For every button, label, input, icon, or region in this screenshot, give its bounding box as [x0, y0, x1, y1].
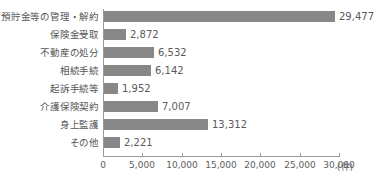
chart-bar-row: 相続手続6,142 [0, 64, 356, 82]
chart-bar-row: 預貯金等の管理・解約29,477 [0, 10, 356, 28]
chart-bar-row: その他2,221 [0, 136, 356, 154]
bar-value-label: 2,872 [130, 28, 159, 42]
bar [103, 137, 120, 148]
x-axis-tick-label: 25,000 [278, 160, 322, 170]
x-axis-unit-label: (件) [337, 160, 353, 173]
bar [103, 65, 151, 76]
bar-value-label: 29,477 [339, 10, 374, 24]
bar [103, 11, 335, 22]
x-axis-tick-label: 30,000 [317, 160, 361, 170]
category-label: 起訴手続等 [0, 82, 99, 96]
category-label: 預貯金等の管理・解約 [0, 10, 99, 24]
x-axis-tick-label: 5,000 [120, 160, 164, 170]
bar-value-label: 7,007 [162, 100, 191, 114]
chart-bar-row: 不動産の処分6,532 [0, 46, 356, 64]
bar-value-label: 6,142 [155, 64, 184, 78]
x-axis-tick-label: 10,000 [160, 160, 204, 170]
x-axis-tick-label: 20,000 [238, 160, 282, 170]
category-label: 保険金受取 [0, 28, 99, 42]
category-label: 不動産の処分 [0, 46, 99, 60]
bar [103, 119, 208, 130]
bar [103, 29, 126, 40]
chart-bar-row: 介護保険契約7,007 [0, 100, 356, 118]
category-label: その他 [0, 136, 99, 150]
bar-value-label: 1,952 [122, 82, 151, 96]
bar [103, 101, 158, 112]
chart-bar-row: 起訴手続等1,952 [0, 82, 356, 100]
bar [103, 83, 118, 94]
x-axis-line [103, 156, 339, 157]
bar-value-label: 13,312 [212, 118, 247, 132]
x-axis-tick-label: 15,000 [199, 160, 243, 170]
category-label: 介護保険契約 [0, 100, 99, 114]
bar-value-label: 6,532 [158, 46, 187, 60]
bar [103, 47, 154, 58]
category-label: 相続手続 [0, 64, 99, 78]
bar-value-label: 2,221 [124, 136, 153, 150]
x-axis-tick-label: 0 [81, 160, 125, 170]
chart-bar-row: 身上監護13,312 [0, 118, 356, 136]
chart-bar-row: 保険金受取2,872 [0, 28, 356, 46]
category-label: 身上監護 [0, 118, 99, 132]
